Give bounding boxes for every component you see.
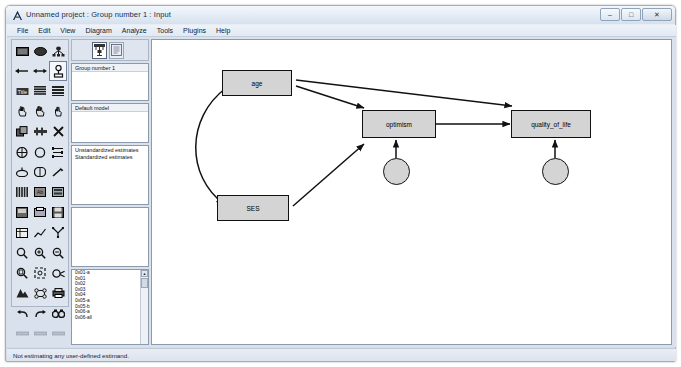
status-message: Not estimating any user-defined estimand… [7, 352, 129, 359]
zoom-page-icon[interactable] [13, 263, 31, 283]
view-output-path-diagram-button[interactable] [109, 42, 124, 59]
node-age[interactable]: age [222, 70, 292, 96]
save-icon[interactable] [49, 203, 67, 223]
draw-path-icon[interactable] [13, 61, 31, 81]
analysis-properties-icon[interactable] [13, 182, 31, 202]
menu-item-file[interactable]: File [12, 27, 33, 34]
estimates-item-standardized[interactable]: Standardized estimates [72, 153, 148, 160]
node-ses[interactable]: SES [217, 195, 289, 221]
path-age-to-quality-of-life [296, 80, 512, 106]
reflect-indicators-icon[interactable] [49, 142, 67, 162]
duplicate-objects-icon[interactable] [13, 122, 31, 142]
change-shape-icon[interactable] [13, 142, 31, 162]
progress-bar-2 [31, 324, 49, 344]
scrollbar-thumb[interactable] [141, 278, 148, 288]
svg-text:Ab: Ab [37, 189, 44, 195]
path-ses-to-optimism [293, 144, 364, 206]
search-icon[interactable] [49, 303, 67, 323]
minimize-button[interactable]: – [600, 8, 620, 21]
status-bar: Not estimating any user-defined estimand… [7, 348, 676, 361]
groups-pane[interactable]: Group number 1 [71, 63, 149, 101]
variables-pane[interactable]: 0x01-a 0x01 0x02 0x03 0x04 0x05-a 0x05-b… [71, 269, 149, 345]
zoom-out-icon[interactable] [49, 243, 67, 263]
view-input-path-diagram-button[interactable] [92, 42, 107, 59]
touch-up-variable-icon[interactable] [31, 162, 49, 182]
list-variables-in-model-icon[interactable] [31, 81, 49, 101]
menu-item-diagram[interactable]: Diagram [80, 27, 116, 34]
fit-to-page-icon[interactable] [31, 263, 49, 283]
path-diagram-canvas[interactable]: age SES optimism quality_of_life [151, 39, 672, 345]
menu-item-edit[interactable]: Edit [33, 27, 55, 34]
menu-item-view[interactable]: View [55, 27, 80, 34]
window-controls: – □ ✕ [600, 8, 672, 22]
bayesian-estimation-icon[interactable] [13, 283, 31, 303]
group-item-0[interactable]: Group number 1 [72, 64, 148, 72]
menu-item-plugins[interactable]: Plugins [178, 27, 211, 34]
node-optimism[interactable]: optimism [362, 110, 436, 138]
client-area: Title [7, 37, 676, 347]
add-unique-variable-icon[interactable] [49, 61, 67, 81]
maximize-button[interactable]: □ [621, 8, 641, 21]
select-one-object-icon[interactable] [13, 102, 31, 122]
select-all-objects-icon[interactable] [31, 102, 49, 122]
specification-search-icon[interactable] [31, 283, 49, 303]
variable-item-8[interactable]: 0x06-all [72, 315, 148, 321]
amos-main-window: Unnamed project : Group number 1 : Input… [5, 5, 676, 362]
node-error-quality-of-life[interactable] [542, 158, 569, 185]
model-item-0[interactable]: Default model [72, 104, 148, 112]
print-icon[interactable] [49, 283, 67, 303]
window-title: Unnamed project : Group number 1 : Input [26, 10, 171, 19]
models-pane[interactable]: Default model [71, 103, 149, 143]
print-preview-icon[interactable] [31, 203, 49, 223]
move-parameter-values-icon[interactable] [13, 162, 31, 182]
navigation-column: Group number 1 Default model Unstandardi… [71, 39, 149, 345]
undo-icon[interactable] [13, 303, 31, 323]
covariance-age-ses [196, 88, 226, 204]
node-quality-of-life[interactable]: quality_of_life [511, 110, 591, 138]
variables-scrollbar[interactable]: ▲ [140, 270, 148, 344]
deselect-all-objects-icon[interactable] [49, 102, 67, 122]
progress-bar-3 [49, 324, 67, 344]
scroll-up-button[interactable]: ▲ [141, 270, 148, 277]
table-output-icon[interactable] [13, 223, 31, 243]
rotate-indicators-icon[interactable] [31, 142, 49, 162]
draw-unobserved-variable-icon[interactable] [31, 41, 49, 61]
redo-icon[interactable] [31, 303, 49, 323]
menu-item-tools[interactable]: Tools [152, 27, 178, 34]
menu-item-analyze[interactable]: Analyze [117, 27, 152, 34]
svg-text:Title: Title [17, 89, 26, 95]
estimates-item-unstandardized[interactable]: Unstandardized estimates [72, 146, 148, 153]
view-toggle-toolbar [71, 39, 149, 61]
draw-latent-with-indicators-icon[interactable] [49, 41, 67, 61]
drag-properties-icon[interactable] [49, 182, 67, 202]
progress-bar-1 [13, 324, 31, 344]
erase-objects-icon[interactable] [49, 122, 67, 142]
path-age-to-optimism [296, 86, 364, 108]
amos-logo-icon [12, 10, 23, 21]
zoom-in-icon[interactable] [31, 243, 49, 263]
select-data-file-icon[interactable] [49, 162, 67, 182]
object-properties-icon[interactable]: Ab [31, 182, 49, 202]
file-list-pane[interactable] [71, 207, 149, 267]
estimates-pane[interactable]: Unstandardized estimates Standardized es… [71, 145, 149, 205]
tool-palette: Title [11, 39, 69, 307]
menu-bar: File Edit View Diagram Analyze Tools Plu… [7, 25, 676, 37]
menu-item-help[interactable]: Help [211, 27, 235, 34]
node-error-optimism[interactable] [383, 158, 410, 185]
preserve-symmetries-icon[interactable] [13, 203, 31, 223]
title-bar: Unnamed project : Group number 1 : Input… [6, 6, 675, 24]
draw-observed-variable-icon[interactable] [13, 41, 31, 61]
close-button[interactable]: ✕ [642, 8, 672, 21]
scatter-plot-icon[interactable] [31, 223, 49, 243]
zoom-icon[interactable] [13, 243, 31, 263]
loupe-icon[interactable] [49, 263, 67, 283]
multiple-group-analysis-icon[interactable] [49, 223, 67, 243]
figure-caption-icon[interactable]: Title [13, 81, 31, 101]
list-variables-in-dataset-icon[interactable] [49, 81, 67, 101]
move-objects-icon[interactable] [31, 122, 49, 142]
draw-covariance-icon[interactable] [31, 61, 49, 81]
